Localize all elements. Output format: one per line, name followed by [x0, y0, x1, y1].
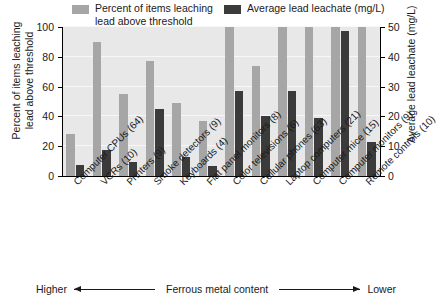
annotation-left-label: Higher — [36, 283, 67, 295]
legend-label-average-leachate: Average lead leachate (mg/L) — [247, 2, 385, 15]
right-axis-tick — [381, 116, 385, 117]
legend-entry-percent-leaching: Percent of items leaching lead above thr… — [72, 2, 213, 27]
ferrous-content-annotation: Higher Ferrous metal content Lower — [36, 281, 396, 297]
annotation-arrow-left — [74, 286, 155, 293]
left-axis-tick — [58, 176, 62, 177]
legend-swatch-percent-leaching — [72, 5, 89, 14]
annotation-center-label: Ferrous metal content — [162, 283, 272, 295]
right-axis-tick — [381, 87, 385, 88]
arrow-head-left-icon — [74, 286, 81, 292]
legend-entry-average-leachate: Average lead leachate (mg/L) — [224, 2, 385, 15]
annotation-arrow-right — [279, 286, 360, 293]
legend-label-percent-leaching: Percent of items leaching lead above thr… — [95, 2, 213, 27]
right-axis-tick — [381, 27, 385, 28]
arrow-shaft — [74, 289, 155, 290]
left-axis-tick — [58, 87, 62, 88]
left-axis-tick — [58, 27, 62, 28]
bar — [155, 109, 163, 176]
bar — [235, 91, 243, 176]
annotation-right-label: Lower — [367, 283, 396, 295]
right-axis-tick — [381, 57, 385, 58]
bar — [66, 134, 74, 176]
legend-swatch-average-leachate — [224, 5, 241, 14]
left-axis-tick-label: 0 — [24, 171, 54, 182]
arrow-shaft — [279, 289, 360, 290]
left-axis-tick — [58, 57, 62, 58]
right-axis-tick-label: 0 — [388, 171, 418, 182]
left-axis-tick — [58, 116, 62, 117]
arrow-head-right-icon — [353, 286, 360, 292]
left-axis-line — [62, 27, 63, 176]
right-axis-line — [380, 27, 381, 176]
left-axis-title: Percent of items leaching lead above thr… — [10, 6, 35, 156]
left-axis-tick — [58, 146, 62, 147]
